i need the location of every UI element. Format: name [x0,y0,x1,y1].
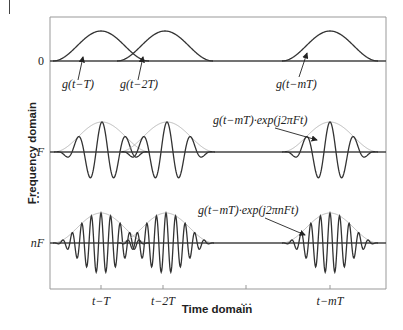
arrow-icon [275,128,317,140]
y-tick-label: nF [31,236,45,250]
signal-rows [50,31,386,272]
envelope-curve [282,213,378,243]
row-F [50,122,386,178]
pulse-curve [119,122,215,178]
time-frequency-diagram: t−Tt−2T…t−mT0F⋮nF g(t−T)g(t−2T)g(t−mT)g(… [0,0,403,330]
row-zero [50,31,386,61]
annotations: g(t−T)g(t−2T)g(t−mT)g(t−mT)·exp(j2πFt)g(… [62,53,317,235]
pulse-curve [282,122,378,178]
envelope-curve [119,122,215,152]
arrow-icon [299,53,307,77]
annotation-label: g(t−mT)·exp(j2πnFt) [198,203,298,217]
pulse-curve [54,122,150,178]
pulse-curve [282,31,378,61]
envelope-curve [118,213,214,243]
x-tick-label: t−mT [317,294,345,308]
arrow-icon [265,218,305,235]
pulse-curve [53,31,149,61]
envelope-curve [53,213,149,243]
y-axis-title: Frequency domain [26,102,38,204]
annotation-label: g(t−mT) [276,77,317,91]
row-nF [50,213,386,272]
envelope-curve [54,122,150,152]
x-tick-label: t−T [92,294,111,308]
annotation-label: g(t−mT)·exp(j2πFt) [213,113,307,127]
x-axis-title: Time domain [182,303,253,315]
annotation-label: g(t−2T) [120,77,158,91]
axis-ticks: t−Tt−2T…t−mT0F⋮nF [31,54,345,308]
y-tick-label: 0 [38,54,44,68]
x-tick-label: t−2T [151,294,176,308]
pulse-curve [117,31,213,61]
